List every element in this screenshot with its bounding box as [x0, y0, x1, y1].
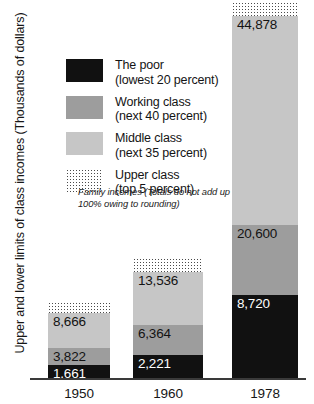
- legend-item-working-class: Working class (next 40 percent): [66, 95, 256, 125]
- legend-label-upper: Upper class: [115, 168, 179, 182]
- bar-1978-label-working: 20,600: [237, 227, 277, 241]
- bar-1950-segment-poor: 1,661: [48, 365, 110, 378]
- bar-1960-segment-working: 6,364: [133, 325, 203, 355]
- legend: The poor (lowest 20 percent) Working cla…: [66, 58, 256, 204]
- chart-footnote: Family incomes (Totals do not add up to …: [78, 186, 253, 210]
- bar-1960-segment-middle: 13,536: [133, 272, 203, 325]
- bar-1978-segment-poor: 8,720: [232, 295, 298, 378]
- legend-item-middle-class: Middle class (next 35 percent): [66, 131, 256, 161]
- bar-1978-segment-upper: [232, 2, 298, 16]
- legend-item-the-poor: The poor (lowest 20 percent): [66, 58, 256, 88]
- bar-1978-segment-middle: 44,878: [232, 16, 298, 225]
- y-axis-label: Upper and lower limits of class incomes …: [13, 0, 27, 369]
- bar-1950-segment-upper: [48, 302, 110, 313]
- bar-1960-label-middle: 13,536: [138, 274, 178, 288]
- bar-1950-label-middle: 8,666: [53, 315, 86, 329]
- x-axis-line: [30, 378, 306, 380]
- legend-swatch-poor-icon: [66, 59, 103, 82]
- bar-1950: 8,666 3,822 1,661: [48, 302, 110, 378]
- bar-1978-segment-working: 20,600: [232, 225, 298, 295]
- bar-1960-segment-upper: [133, 258, 203, 272]
- bar-1960-label-poor: 2,221: [138, 357, 171, 371]
- legend-label-working: Working class: [115, 95, 191, 109]
- legend-sublabel-poor: (lowest 20 percent): [115, 73, 218, 88]
- x-tick-1978: 1978: [232, 386, 298, 401]
- legend-label-poor: The poor: [115, 58, 164, 72]
- bar-1950-label-working: 3,822: [53, 350, 86, 364]
- legend-swatch-middle-icon: [66, 132, 103, 155]
- legend-swatch-working-icon: [66, 96, 103, 119]
- legend-text-poor: The poor (lowest 20 percent): [115, 58, 218, 88]
- y-axis-label-container: Upper and lower limits of class incomes …: [0, 0, 30, 378]
- legend-sublabel-middle: (next 35 percent): [115, 146, 207, 161]
- bar-1960-segment-poor: 2,221: [133, 355, 203, 378]
- legend-label-middle: Middle class: [115, 131, 182, 145]
- plot-area: The poor (lowest 20 percent) Working cla…: [30, 0, 314, 404]
- income-class-limits-chart: Upper and lower limits of class incomes …: [0, 0, 314, 404]
- legend-sublabel-working: (next 40 percent): [115, 109, 207, 124]
- x-tick-1950: 1950: [48, 386, 110, 401]
- bar-1950-segment-middle: 8,666: [48, 313, 110, 348]
- x-tick-1960: 1960: [133, 386, 203, 401]
- bar-1978-label-middle: 44,878: [237, 18, 277, 32]
- legend-text-middle: Middle class (next 35 percent): [115, 131, 207, 161]
- bar-1960: 13,536 6,364 2,221: [133, 258, 203, 378]
- legend-text-working: Working class (next 40 percent): [115, 95, 207, 125]
- bar-1950-segment-working: 3,822: [48, 348, 110, 365]
- bar-1960-label-working: 6,364: [138, 327, 171, 341]
- bar-1978-label-poor: 8,720: [237, 297, 270, 311]
- bar-1978: 44,878 20,600 8,720: [232, 2, 298, 378]
